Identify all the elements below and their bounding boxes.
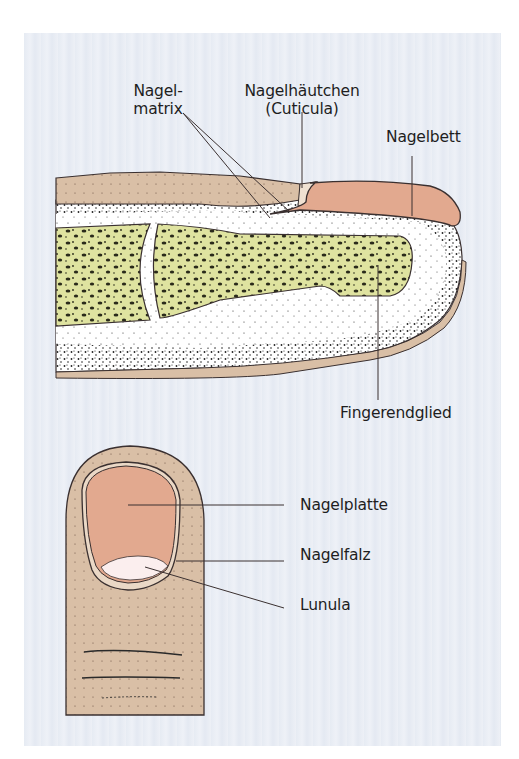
label-nagelmatrix-line1: Nagel-	[126, 82, 190, 100]
label-fingerendglied: Fingerendglied	[340, 404, 452, 422]
label-nagelmatrix: Nagel- matrix	[126, 82, 190, 118]
middle-phalanx	[56, 224, 150, 326]
dorsal-skin	[56, 172, 300, 206]
label-lunula: Lunula	[300, 596, 350, 614]
label-nagelfalz: Nagelfalz	[300, 546, 370, 564]
label-nagelmatrix-line2: matrix	[126, 100, 190, 118]
label-nagelbett: Nagelbett	[386, 128, 461, 146]
dorsal-view	[66, 446, 204, 715]
label-nagelplatte: Nagelplatte	[300, 496, 388, 514]
label-cuticula-line2: (Cuticula)	[234, 100, 370, 118]
label-cuticula-line1: Nagelhäutchen	[234, 82, 370, 100]
section-view	[56, 172, 466, 379]
label-cuticula: Nagelhäutchen (Cuticula)	[234, 82, 370, 118]
